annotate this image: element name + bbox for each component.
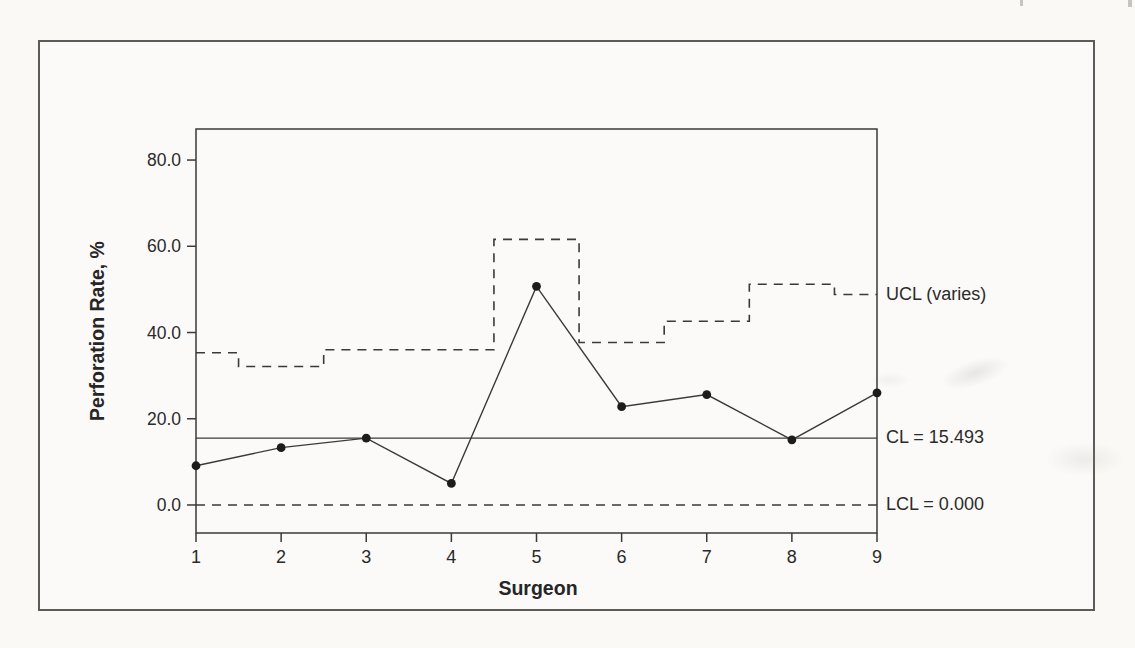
data-point-surgeon-9: [873, 388, 882, 397]
y-tick-label: 20.0: [147, 409, 181, 429]
x-tick-label: 6: [617, 547, 627, 567]
x-tick-label: 9: [872, 547, 882, 567]
lcl-line-label: LCL = 0.000: [886, 494, 984, 515]
ucl-line-label: UCL (varies): [886, 284, 986, 305]
ucl-step-line: [196, 239, 877, 366]
control-chart-plot: 0.020.040.060.080.0123456789: [0, 0, 1135, 648]
y-axis-title: Perforation Rate, %: [86, 241, 109, 421]
x-tick-label: 2: [276, 547, 286, 567]
data-point-surgeon-1: [192, 461, 201, 470]
data-point-surgeon-7: [702, 390, 711, 399]
data-point-surgeon-3: [362, 434, 371, 443]
y-tick-label: 0.0: [157, 495, 182, 515]
data-point-surgeon-5: [532, 282, 541, 291]
y-tick-label: 40.0: [147, 323, 181, 343]
x-tick-label: 8: [787, 547, 797, 567]
data-line: [196, 286, 877, 483]
data-point-surgeon-6: [617, 402, 626, 411]
center-line-label: CL = 15.493: [886, 427, 984, 448]
scanned-document-page: 0.020.040.060.080.0123456789 Perforation…: [0, 0, 1135, 648]
x-tick-label: 7: [702, 547, 712, 567]
x-axis-title: Surgeon: [498, 577, 577, 600]
x-tick-label: 1: [191, 547, 201, 567]
data-point-surgeon-2: [277, 443, 286, 452]
y-tick-label: 80.0: [147, 150, 181, 170]
x-tick-label: 5: [531, 547, 541, 567]
x-tick-label: 3: [361, 547, 371, 567]
data-point-surgeon-4: [447, 479, 456, 488]
y-tick-label: 60.0: [147, 236, 181, 256]
x-tick-label: 4: [446, 547, 456, 567]
data-point-surgeon-8: [787, 435, 796, 444]
plot-box: [196, 129, 877, 533]
